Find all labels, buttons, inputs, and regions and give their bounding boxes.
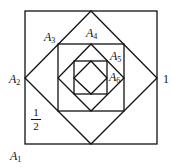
label-a3: A3 — [44, 31, 55, 45]
fraction-denominator: 2 — [31, 121, 41, 132]
label-a5: A5 — [110, 50, 121, 64]
fraction-numerator: 1 — [31, 107, 41, 118]
label-a4: A4 — [86, 27, 97, 41]
side-length-label: 1 — [163, 73, 169, 85]
label-a1: A1 — [10, 150, 21, 164]
square-3 — [74, 61, 107, 94]
label-a2: A2 — [9, 73, 20, 87]
half-fraction-label: 1 2 — [31, 107, 41, 132]
label-a6: A6 — [109, 71, 120, 85]
diamond-3 — [74, 61, 107, 94]
